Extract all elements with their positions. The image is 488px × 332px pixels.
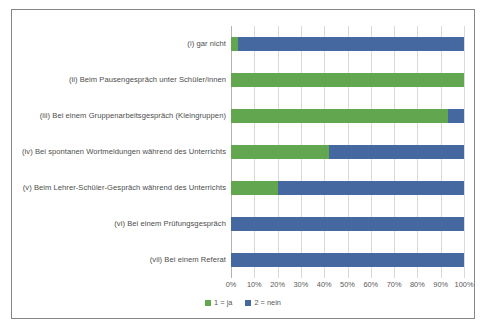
- x-tick-label: 0%: [226, 280, 237, 289]
- x-tick-label: 10%: [247, 280, 262, 289]
- legend-swatch-icon: [205, 300, 211, 306]
- bar-segment[interactable]: [329, 145, 464, 159]
- bar-segment[interactable]: [231, 73, 464, 87]
- bar-row[interactable]: [231, 109, 464, 123]
- bar-row[interactable]: [231, 37, 464, 51]
- x-tick-label: 40%: [317, 280, 332, 289]
- category-label: (iii) Bei einem Gruppenarbeitsgespräch (…: [21, 111, 226, 122]
- bar-segment[interactable]: [448, 109, 464, 123]
- legend-item[interactable]: 2 = nein: [245, 298, 281, 307]
- bar-segment[interactable]: [231, 181, 278, 195]
- x-tick-label: 20%: [270, 280, 285, 289]
- x-axis-tick-labels: 0%10%20%30%40%50%60%70%80%90%100%: [231, 280, 464, 294]
- bar-row[interactable]: [231, 145, 464, 159]
- x-tick-label: 100%: [455, 280, 474, 289]
- x-tick-label: 30%: [293, 280, 308, 289]
- x-tick-label: 90%: [433, 280, 448, 289]
- bar-segment[interactable]: [231, 253, 464, 267]
- bar-segment[interactable]: [238, 37, 464, 51]
- legend-swatch-icon: [245, 300, 251, 306]
- bar-row[interactable]: [231, 217, 464, 231]
- plot-area: [231, 26, 464, 278]
- category-label: (ii) Beim Pausengespräch unter Schüler/i…: [21, 75, 226, 86]
- bar-segment[interactable]: [278, 181, 464, 195]
- x-tick-label: 50%: [340, 280, 355, 289]
- category-label: (i) gar nicht: [21, 39, 226, 50]
- legend-item[interactable]: 1 = ja: [205, 298, 232, 307]
- legend-label: 1 = ja: [214, 298, 232, 307]
- plot-wrapper: (i) gar nicht(ii) Beim Pausengespräch un…: [12, 10, 474, 318]
- bar-segment[interactable]: [231, 217, 464, 231]
- x-tick-label: 70%: [387, 280, 402, 289]
- category-label: (iv) Bei spontanen Wortmeldungen während…: [21, 147, 226, 158]
- bar-row[interactable]: [231, 181, 464, 195]
- gridline: [464, 26, 465, 278]
- bar-row[interactable]: [231, 73, 464, 87]
- bar-segment[interactable]: [231, 109, 448, 123]
- category-label: (vi) Bei einem Prüfungsgespräch: [21, 219, 226, 230]
- bar-row[interactable]: [231, 253, 464, 267]
- category-label: (v) Beim Lehrer-Schüler-Gespräch während…: [21, 183, 226, 194]
- x-tick-label: 60%: [363, 280, 378, 289]
- chart-legend: 1 = ja2 = nein: [12, 298, 474, 307]
- bar-segment[interactable]: [231, 145, 329, 159]
- legend-label: 2 = nein: [254, 298, 281, 307]
- chart-container: (i) gar nicht(ii) Beim Pausengespräch un…: [11, 9, 475, 319]
- x-tick-label: 80%: [410, 280, 425, 289]
- category-label: (vii) Bei einem Referat: [21, 255, 226, 266]
- bar-segment[interactable]: [231, 37, 238, 51]
- category-axis-labels: (i) gar nicht(ii) Beim Pausengespräch un…: [21, 26, 226, 278]
